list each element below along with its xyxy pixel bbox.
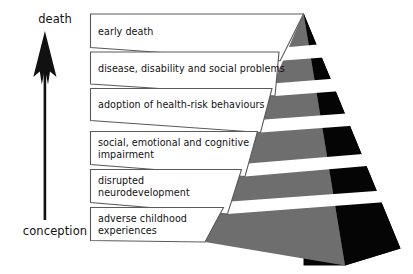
ace-pyramid-figure: death conception early death disease, di…	[0, 0, 413, 274]
axis-label-conception: conception	[4, 224, 106, 238]
level-label-2: disease, disability and social problems	[98, 63, 285, 75]
upward-arrow-icon	[33, 31, 56, 220]
axis-label-death: death	[24, 12, 86, 26]
level-label-5: disrupted neurodevelopment	[98, 175, 190, 198]
level-label-6: adverse childhood experiences	[98, 213, 187, 236]
level-label-4: social, emotional and cognitive impairme…	[98, 137, 249, 160]
level-label-3: adoption of health-risk behaviours	[98, 99, 265, 111]
level-label-1: early death	[98, 26, 153, 38]
